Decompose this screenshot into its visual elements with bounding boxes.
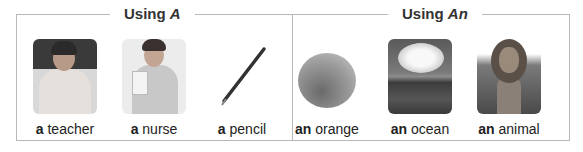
caption: an orange bbox=[287, 121, 367, 137]
caption: a teacher bbox=[25, 121, 105, 137]
article: a bbox=[131, 121, 139, 137]
using-a-panel: Using A a teacher a nurse a pencil bbox=[16, 14, 293, 141]
lion-photo bbox=[477, 39, 541, 114]
using-an-title: Using An bbox=[388, 5, 482, 23]
noun: orange bbox=[315, 121, 359, 137]
article: an bbox=[295, 121, 311, 137]
title-prefix: Using bbox=[402, 5, 448, 22]
article: a bbox=[36, 121, 44, 137]
using-an-panel: Using An an orange an ocean an animal bbox=[292, 14, 570, 141]
teacher-photo bbox=[33, 39, 97, 114]
caption: a pencil bbox=[202, 121, 282, 137]
nurse-photo bbox=[122, 39, 186, 114]
orange-photo bbox=[295, 39, 359, 114]
caption: an ocean bbox=[380, 121, 460, 137]
using-a-title: Using A bbox=[110, 5, 195, 23]
title-prefix: Using bbox=[124, 5, 170, 22]
article: an bbox=[391, 121, 407, 137]
caption: an animal bbox=[469, 121, 549, 137]
noun: teacher bbox=[47, 121, 94, 137]
example-animal: an animal bbox=[469, 39, 549, 137]
noun: nurse bbox=[142, 121, 177, 137]
pencil-photo bbox=[210, 39, 274, 114]
pencil-icon bbox=[210, 39, 274, 114]
example-orange: an orange bbox=[287, 39, 367, 137]
example-ocean: an ocean bbox=[380, 39, 460, 137]
noun: ocean bbox=[411, 121, 449, 137]
article: a bbox=[218, 121, 226, 137]
article: an bbox=[478, 121, 494, 137]
caption: a nurse bbox=[114, 121, 194, 137]
title-article: An bbox=[448, 5, 468, 22]
example-nurse: a nurse bbox=[114, 39, 194, 137]
example-teacher: a teacher bbox=[25, 39, 105, 137]
noun: animal bbox=[498, 121, 539, 137]
title-article: A bbox=[170, 5, 181, 22]
example-pencil: a pencil bbox=[202, 39, 282, 137]
ocean-photo bbox=[388, 39, 452, 114]
noun: pencil bbox=[230, 121, 267, 137]
